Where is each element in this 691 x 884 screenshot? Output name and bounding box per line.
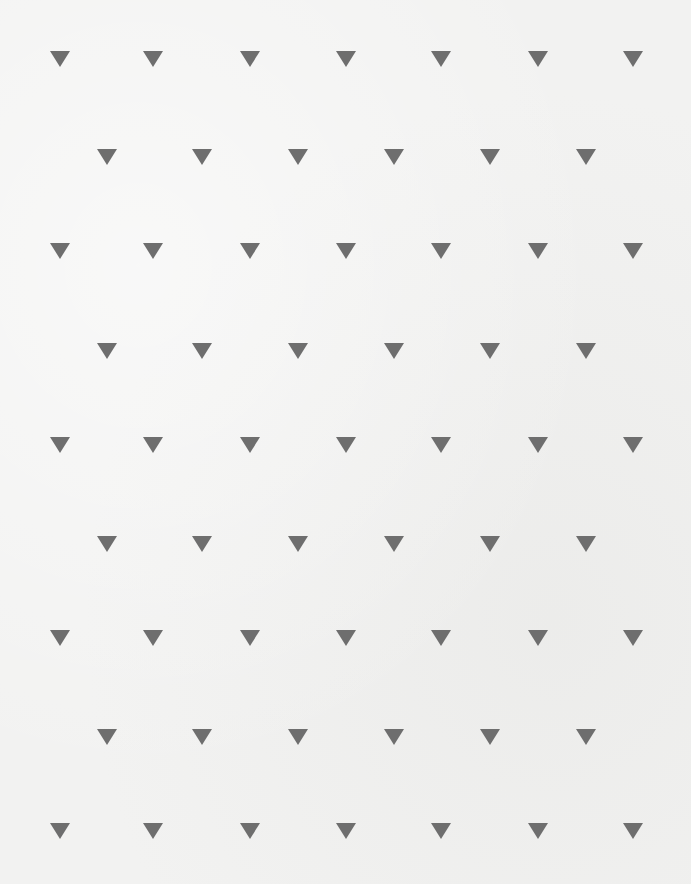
triangle-down-icon	[336, 630, 356, 646]
triangle-down-icon	[50, 437, 70, 453]
triangle-down-icon	[528, 243, 548, 259]
triangle-down-icon	[192, 343, 212, 359]
triangle-down-icon	[97, 149, 117, 165]
triangle-down-icon	[431, 51, 451, 67]
triangle-down-icon	[431, 823, 451, 839]
triangle-down-icon	[623, 243, 643, 259]
triangle-down-icon	[336, 823, 356, 839]
triangle-down-icon	[192, 536, 212, 552]
triangle-down-icon	[480, 729, 500, 745]
triangle-down-icon	[50, 243, 70, 259]
triangle-down-icon	[97, 536, 117, 552]
triangle-down-icon	[143, 630, 163, 646]
triangle-down-icon	[384, 149, 404, 165]
triangle-down-icon	[528, 823, 548, 839]
triangle-down-icon	[384, 536, 404, 552]
triangle-down-icon	[50, 51, 70, 67]
triangle-down-icon	[97, 729, 117, 745]
triangle-down-icon	[528, 437, 548, 453]
triangle-down-icon	[50, 823, 70, 839]
triangle-down-icon	[576, 536, 596, 552]
triangle-down-icon	[288, 729, 308, 745]
triangle-down-icon	[192, 149, 212, 165]
triangle-down-icon	[576, 149, 596, 165]
triangle-down-icon	[528, 51, 548, 67]
triangle-down-icon	[240, 437, 260, 453]
triangle-down-icon	[336, 243, 356, 259]
triangle-down-icon	[240, 630, 260, 646]
triangle-down-icon	[288, 343, 308, 359]
triangle-down-icon	[623, 630, 643, 646]
triangle-down-icon	[623, 823, 643, 839]
triangle-down-icon	[480, 149, 500, 165]
triangle-down-icon	[623, 51, 643, 67]
triangle-down-icon	[143, 823, 163, 839]
triangle-down-icon	[576, 343, 596, 359]
triangle-down-icon	[143, 51, 163, 67]
triangle-down-icon	[576, 729, 596, 745]
triangle-down-icon	[431, 630, 451, 646]
triangle-down-icon	[50, 630, 70, 646]
triangle-down-icon	[240, 243, 260, 259]
triangle-down-icon	[431, 437, 451, 453]
triangle-down-icon	[288, 536, 308, 552]
triangle-down-icon	[384, 729, 404, 745]
triangle-down-icon	[336, 51, 356, 67]
triangle-down-icon	[384, 343, 404, 359]
triangle-down-icon	[192, 729, 212, 745]
triangle-down-icon	[240, 823, 260, 839]
triangle-down-icon	[336, 437, 356, 453]
triangle-down-icon	[97, 343, 117, 359]
triangle-down-icon	[480, 536, 500, 552]
triangle-down-icon	[143, 243, 163, 259]
triangle-down-icon	[240, 51, 260, 67]
triangle-down-icon	[143, 437, 163, 453]
triangle-down-icon	[528, 630, 548, 646]
triangle-down-icon	[623, 437, 643, 453]
triangle-down-icon	[288, 149, 308, 165]
triangle-down-icon	[431, 243, 451, 259]
triangle-down-icon	[480, 343, 500, 359]
